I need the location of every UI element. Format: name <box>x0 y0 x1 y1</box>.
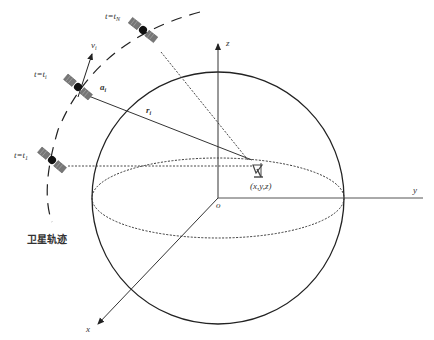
y-axis-label: y <box>412 185 417 195</box>
diagram-canvas: z y x o (x,y,z) t=tN t=ti t=t1 vi ai ri … <box>0 0 434 340</box>
acceleration-label: ai <box>100 82 107 93</box>
sat-N-time-label: t=tN <box>105 11 121 22</box>
range-label: ri <box>146 105 152 116</box>
z-axis-label: z <box>225 38 230 48</box>
x-axis-label: x <box>85 324 90 334</box>
origin-label: o <box>216 200 221 210</box>
sat-i-time-label: t=ti <box>34 69 47 80</box>
orbit-path <box>47 12 200 222</box>
receiver-position-label: (x,y,z) <box>250 181 272 191</box>
x-axis <box>98 198 218 324</box>
range-vector <box>86 95 252 160</box>
sat-1-time-label: t=t1 <box>14 150 28 161</box>
orbit-label: 卫星轨迹 <box>27 233 67 245</box>
velocity-label: vi <box>91 40 97 51</box>
sat-N-line-of-sight <box>161 52 248 160</box>
antenna-icon <box>253 163 263 177</box>
satellite-icon-N <box>128 17 158 43</box>
